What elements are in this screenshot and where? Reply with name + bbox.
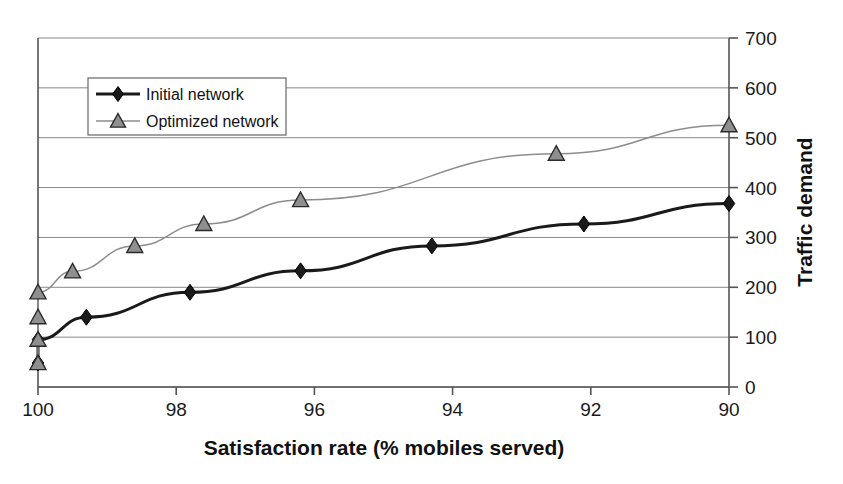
x-tick-label-92: 92 — [580, 399, 601, 420]
y-tick-label-600: 600 — [745, 78, 777, 99]
y-tick-label-200: 200 — [745, 277, 777, 298]
chart-figure: 0100200300400500600700 1009896949290 Ini… — [0, 0, 843, 484]
caption-fragment — [18, 466, 818, 480]
x-tick-label-94: 94 — [442, 399, 464, 420]
y-tick-label-100: 100 — [745, 327, 777, 348]
x-tick-label-96: 96 — [304, 399, 325, 420]
chart-legend: Initial networkOptimized network — [88, 78, 286, 135]
y-tick-label-300: 300 — [745, 227, 777, 248]
y-tick-label-500: 500 — [745, 128, 777, 149]
legend-label-1: Optimized network — [146, 113, 279, 130]
y-tick-label-0: 0 — [745, 377, 756, 398]
y-tick-label-700: 700 — [745, 28, 777, 49]
y-axis-title: Traffic demand — [793, 137, 816, 286]
legend-label-0: Initial network — [146, 86, 245, 103]
y-tick-label-400: 400 — [745, 178, 777, 199]
x-tick-label-100: 100 — [22, 399, 54, 420]
x-axis-title: Satisfaction rate (% mobiles served) — [204, 436, 565, 459]
x-tick-label-90: 90 — [718, 399, 739, 420]
x-tick-label-98: 98 — [166, 399, 187, 420]
traffic-demand-line-chart: 0100200300400500600700 1009896949290 Ini… — [0, 0, 843, 484]
chart-background — [0, 0, 843, 484]
